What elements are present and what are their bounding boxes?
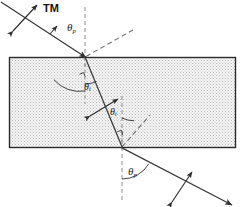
incident-ray-direction-arrow [50,26,57,34]
exit-transmitted-ray [122,148,233,205]
theta-p-bottom-label: θp [128,166,137,178]
exit-polarization-arrow [172,172,192,202]
incident-polarization-arrow [13,5,37,31]
theta-t-lower-label: θt [110,107,117,118]
figure-canvas: TM θp θt θt θp [0,0,240,207]
reflected-ray-top-dashed [86,30,133,56]
theta-t-upper-label: θt [84,82,91,93]
ray-diagram-svg [0,0,240,207]
theta-p-top-label: θp [67,22,76,34]
tm-polarization-label: TM [43,3,59,14]
